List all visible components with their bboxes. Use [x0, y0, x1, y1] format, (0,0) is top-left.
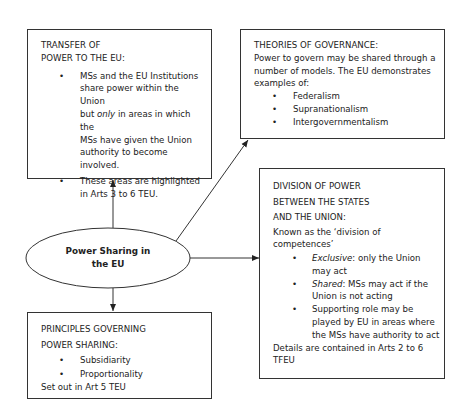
principles-footer: Set out in Art 5 TEU — [41, 381, 205, 394]
center-node: Power Sharing in the EU — [40, 245, 176, 271]
principles-title-line1: PRINCIPLES GOVERNING — [41, 322, 205, 338]
division-of-power-box: DIVISION OF POWER BETWEEN THE STATES AND… — [259, 168, 445, 379]
principles-bullet-1: • Subsidiarity — [41, 353, 205, 367]
division-title-line2: BETWEEN THE STATES — [273, 195, 440, 211]
division-bullet-supporting: • Supporting role may be played by EU in… — [273, 303, 440, 341]
division-bullet-shared: • Shared: MSs may act if the Union is no… — [273, 278, 440, 304]
transfer-bullet-2: • These areas are highlighted in Arts 3 … — [41, 175, 203, 201]
center-node-line1: Power Sharing in — [40, 245, 176, 258]
bullet-icon: • — [292, 278, 297, 291]
division-bullet-list: • Exclusive: only the Union may act • Sh… — [273, 252, 440, 342]
transfer-title-line2: POWER TO THE EU: — [41, 52, 203, 65]
bullet-icon: • — [59, 367, 64, 381]
bullet-icon: • — [292, 252, 297, 265]
bullet-icon: • — [59, 175, 64, 188]
theories-title: THEORIES OF GOVERNANCE: — [254, 39, 438, 52]
transfer-bullet-list: • MSs and the EU Institutions share powe… — [41, 70, 203, 201]
principles-bullet-list: • Subsidiarity • Proportionality — [41, 353, 205, 381]
theories-bullet-1: • Federalism — [254, 90, 438, 103]
bullet-icon: • — [272, 90, 277, 103]
principles-title-line2: POWER SHARING: — [41, 338, 205, 354]
theories-bullet-list: • Federalism • Supranationalism • Interg… — [254, 90, 438, 128]
division-title-line3: AND THE UNION: — [273, 210, 440, 226]
transfer-bullet-1: • MSs and the EU Institutions share powe… — [41, 70, 203, 172]
transfer-title-line1: TRANSFER OF — [41, 39, 203, 52]
bullet-icon: • — [59, 353, 64, 367]
division-title-line1: DIVISION OF POWER — [273, 179, 440, 195]
center-node-line2: the EU — [40, 258, 176, 271]
principles-bullet-2: • Proportionality — [41, 367, 205, 381]
theories-of-governance-box: THEORIES OF GOVERNANCE: Power to govern … — [240, 29, 445, 139]
division-bullet-exclusive: • Exclusive: only the Union may act — [273, 252, 440, 278]
principles-box: PRINCIPLES GOVERNING POWER SHARING: • Su… — [27, 312, 212, 399]
bullet-icon: • — [292, 303, 297, 316]
bullet-icon: • — [272, 116, 277, 129]
transfer-of-power-box: TRANSFER OF POWER TO THE EU: • MSs and t… — [27, 29, 212, 179]
theories-bullet-2: • Supranationalism — [254, 103, 438, 116]
bullet-icon: • — [272, 103, 277, 116]
theories-bullet-3: • Intergovernmentalism — [254, 116, 438, 129]
bullet-icon: • — [59, 70, 64, 83]
